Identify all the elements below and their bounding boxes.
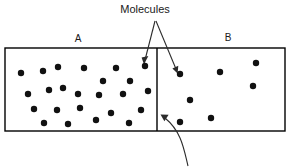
chamber-b-label: B bbox=[225, 32, 232, 43]
molecule-dot-a-19 bbox=[138, 107, 144, 113]
gas-container-diagram: A B Molecules bbox=[0, 0, 290, 167]
molecule-dot-a-15 bbox=[31, 106, 37, 112]
molecule-dot-a-9 bbox=[60, 85, 66, 91]
molecule-dot-a-2 bbox=[55, 64, 61, 70]
molecule-dot-a-5 bbox=[142, 63, 148, 69]
molecules-group-chamber-b bbox=[177, 60, 259, 125]
molecule-dot-a-21 bbox=[65, 121, 71, 127]
molecule-dot-a-1 bbox=[40, 68, 46, 74]
molecule-dot-b-3 bbox=[208, 115, 214, 121]
molecule-dot-a-17 bbox=[77, 105, 83, 111]
molecule-dot-a-3 bbox=[81, 65, 87, 71]
pointer-left-line bbox=[145, 21, 155, 60]
molecule-dot-a-16 bbox=[54, 107, 60, 113]
molecule-dot-a-13 bbox=[120, 91, 126, 97]
molecule-dot-a-0 bbox=[18, 70, 24, 76]
molecule-dot-a-12 bbox=[96, 92, 102, 98]
molecule-dot-a-20 bbox=[41, 120, 47, 126]
partition-pointer-path bbox=[165, 118, 188, 166]
molecule-dot-a-11 bbox=[75, 91, 81, 97]
molecule-dot-a-8 bbox=[46, 87, 52, 93]
molecule-dot-b-1 bbox=[177, 71, 183, 77]
molecule-dot-b-4 bbox=[217, 69, 223, 75]
chamber-a-label: A bbox=[75, 33, 82, 44]
molecules-title-label: Molecules bbox=[120, 3, 170, 15]
diagram-canvas: A B Molecules bbox=[0, 0, 290, 167]
pointer-right-line bbox=[156, 21, 176, 69]
molecule-dot-a-10 bbox=[25, 91, 31, 97]
molecule-dot-a-14 bbox=[145, 88, 151, 94]
molecule-dot-a-22 bbox=[93, 117, 99, 123]
molecule-dot-b-2 bbox=[187, 97, 193, 103]
molecule-dot-a-23 bbox=[126, 120, 132, 126]
molecules-pointer-left bbox=[142, 21, 155, 65]
partition-pointer-curve bbox=[161, 115, 189, 167]
molecule-dot-b-6 bbox=[250, 83, 256, 89]
molecule-dot-a-6 bbox=[100, 78, 106, 84]
molecules-pointer-right bbox=[156, 21, 178, 74]
molecule-dot-a-18 bbox=[108, 110, 114, 116]
molecule-dot-b-5 bbox=[253, 60, 259, 66]
molecule-dot-b-0 bbox=[177, 119, 183, 125]
molecule-dot-a-4 bbox=[113, 65, 119, 71]
molecules-group-chamber-a bbox=[18, 63, 151, 127]
molecule-dot-a-7 bbox=[127, 78, 133, 84]
